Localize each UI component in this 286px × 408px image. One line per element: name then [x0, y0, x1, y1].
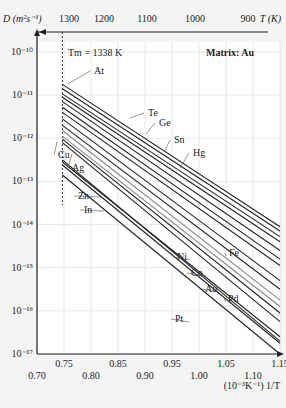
series-label-au: Au: [205, 283, 217, 294]
y-tick-label: 10⁻¹⁶: [12, 305, 34, 316]
series-label-ge: Ge: [159, 117, 171, 128]
series-label-sn: Sn: [174, 134, 185, 145]
x-tick-label: 0.85: [109, 358, 127, 369]
y-tick-label: 10⁻¹⁷: [12, 348, 34, 359]
y-tick-label: 10⁻¹¹: [12, 89, 33, 100]
top-tick-label: 900: [241, 13, 256, 24]
top-tick-label: 1300: [59, 13, 79, 24]
x-tick-label: 0.80: [82, 370, 100, 381]
series-label-at: At: [94, 65, 104, 76]
x-tick-label: 1.05: [217, 358, 235, 369]
matrix-annotation: Matrix: Au: [206, 47, 254, 58]
diffusion-chart: 10⁻¹⁰10⁻¹¹10⁻¹²10⁻¹³10⁻¹⁴10⁻¹⁵10⁻¹⁶10⁻¹⁷…: [0, 0, 286, 408]
y-tick-label: 10⁻¹⁵: [12, 262, 33, 273]
y-tick-label: 10⁻¹⁴: [12, 219, 34, 230]
y-tick-label: 10⁻¹²: [12, 132, 33, 143]
x-tick-label: 0.95: [163, 358, 181, 369]
x-tick-label: 1.00: [190, 370, 208, 381]
x-tick-label: 0.75: [55, 358, 73, 369]
y-tick-label: 10⁻¹⁰: [11, 46, 33, 57]
top-axis-arrow-icon: [39, 29, 46, 35]
x-tick-label: 1.15: [271, 358, 286, 369]
top-tick-label: 1000: [185, 13, 205, 24]
series-label-hg: Hg: [193, 147, 205, 158]
series-label-te: Te: [148, 107, 158, 118]
series-label-ni: Ni: [177, 251, 187, 262]
series-label-ag: Ag: [72, 162, 84, 173]
y-tick-label: 10⁻¹³: [12, 175, 33, 186]
series-label-co: Co: [191, 267, 203, 278]
x-tick-label: 0.90: [136, 370, 154, 381]
x-tick-label: 0.70: [28, 370, 46, 381]
series-label-pt: Pt: [175, 313, 184, 324]
top-axis-label: T (K): [260, 13, 282, 25]
series-label-zn: Zn: [78, 190, 89, 201]
x-axis-label: (10⁻³K⁻¹) 1/T: [224, 380, 280, 392]
series-label-fe: Fe: [229, 247, 240, 258]
series-label-pd: Pd: [228, 293, 239, 304]
series-label-cu: Cu: [58, 149, 70, 160]
y-axis-label: D (m²s⁻¹): [2, 13, 42, 25]
top-tick-label: 1200: [94, 13, 114, 24]
top-tick-label: 1100: [137, 13, 157, 24]
melting-point-annotation: Tm = 1338 K: [68, 47, 123, 58]
series-label-in: In: [84, 204, 92, 215]
